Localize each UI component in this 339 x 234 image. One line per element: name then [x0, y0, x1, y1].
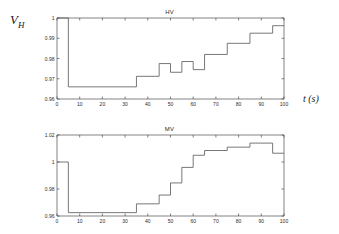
x-tick-label: 80	[236, 218, 242, 224]
x-tick-label: 40	[145, 218, 151, 224]
x-tick-label: 60	[190, 101, 196, 107]
x-tick-label: 90	[259, 218, 265, 224]
plot-canvas-mv: 01020304050607080901000.960.9811.02	[0, 117, 339, 234]
y-tick-label: 1	[52, 15, 55, 21]
x-tick-label: 0	[56, 101, 59, 107]
x-tick-label: 70	[213, 218, 219, 224]
x-tick-label: 100	[280, 218, 289, 224]
figure-two-stacked-step-plots: VH HV t (s) 01020304050607080901000.960.…	[0, 0, 339, 234]
y-tick-label: 0.98	[45, 56, 55, 62]
panel-hv: VH HV t (s) 01020304050607080901000.960.…	[0, 0, 339, 117]
x-tick-label: 0	[56, 218, 59, 224]
x-tick-label: 100	[280, 101, 289, 107]
x-tick-label: 70	[213, 101, 219, 107]
x-tick-label: 30	[122, 101, 128, 107]
x-tick-label: 10	[77, 101, 83, 107]
x-tick-label: 20	[100, 218, 106, 224]
plot-canvas-hv: 01020304050607080901000.960.970.980.991	[0, 0, 339, 117]
x-tick-label: 80	[236, 101, 242, 107]
y-tick-label: 0.97	[45, 76, 55, 82]
x-tick-label: 50	[168, 218, 174, 224]
y-tick-label: 0.99	[45, 35, 55, 41]
x-tick-label: 50	[168, 101, 174, 107]
x-tick-label: 60	[190, 218, 196, 224]
data-series-line	[57, 143, 284, 213]
x-tick-label: 10	[77, 218, 83, 224]
x-tick-label: 30	[122, 218, 128, 224]
x-tick-label: 40	[145, 101, 151, 107]
y-tick-label: 0.96	[45, 96, 55, 102]
y-tick-label: 1.02	[45, 132, 55, 138]
data-series-line	[57, 18, 284, 87]
y-tick-label: 0.96	[45, 213, 55, 219]
x-tick-label: 90	[259, 101, 265, 107]
x-tick-label: 20	[100, 101, 106, 107]
y-tick-label: 0.98	[45, 186, 55, 192]
panel-mv: VM MV t (s) 01020304050607080901000.960.…	[0, 117, 339, 234]
y-tick-label: 1	[52, 159, 55, 165]
